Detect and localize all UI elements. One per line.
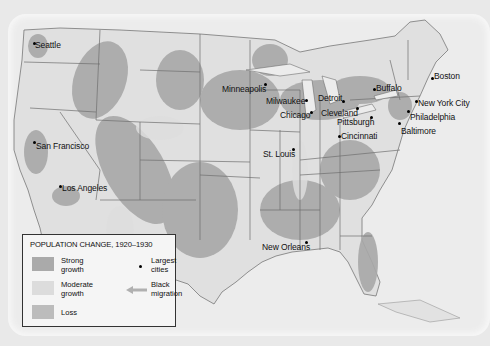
city-label-milwaukee: Milwaukee bbox=[266, 96, 305, 106]
city-dot-milwaukee bbox=[305, 99, 308, 102]
legend-label: migration bbox=[151, 289, 182, 298]
moderate-growth-swatch bbox=[32, 281, 54, 295]
city-label-boston: Boston bbox=[434, 71, 460, 81]
city-label-new-orleans: New Orleans bbox=[262, 242, 310, 252]
city-label-minneapolis: Minneapolis bbox=[222, 84, 266, 94]
cuba bbox=[378, 300, 460, 322]
legend-label: Moderate bbox=[61, 280, 93, 289]
legend-black-migration: Black migration bbox=[151, 280, 182, 298]
city-dot-baltimore bbox=[398, 122, 401, 125]
migration-arrow-icon bbox=[125, 286, 149, 294]
city-label-st-louis: St. Louis bbox=[263, 149, 295, 159]
strong-growth-swatch bbox=[32, 257, 54, 271]
map-legend: POPULATION CHANGE, 1920–1930 Strong grow… bbox=[22, 234, 176, 327]
legend-label: growth bbox=[61, 265, 84, 274]
city-label-pittsburgh: Pittsburgh bbox=[337, 117, 374, 127]
city-dot-icon bbox=[139, 265, 142, 268]
city-label-chicago: Chicago bbox=[280, 110, 311, 120]
legend-moderate-growth: Moderate growth bbox=[61, 280, 93, 298]
legend-title: POPULATION CHANGE, 1920–1930 bbox=[30, 240, 152, 249]
legend-label: Loss bbox=[61, 308, 77, 317]
city-label-detroit: Detroit bbox=[318, 93, 342, 103]
city-label-new-york-city: New York City bbox=[418, 98, 470, 108]
city-label-buffalo: Buffalo bbox=[376, 83, 402, 93]
legend-label: growth bbox=[61, 289, 93, 298]
legend-loss: Loss bbox=[61, 308, 77, 317]
legend-label: Black bbox=[151, 280, 182, 289]
legend-label: cities bbox=[151, 265, 176, 274]
city-label-baltimore: Baltimore bbox=[401, 126, 436, 136]
city-label-seattle: Seattle bbox=[35, 40, 61, 50]
legend-strong-growth: Strong growth bbox=[61, 256, 84, 274]
city-dot-detroit bbox=[342, 100, 345, 103]
loss-swatch bbox=[32, 305, 54, 319]
city-label-san-francisco: San Francisco bbox=[36, 141, 89, 151]
legend-largest-cities: Largest cities bbox=[151, 256, 176, 274]
legend-label: Strong bbox=[61, 256, 84, 265]
city-label-los-angeles: Los Angeles bbox=[62, 183, 107, 193]
city-label-philadelphia: Philadelphia bbox=[410, 112, 455, 122]
legend-label: Largest bbox=[151, 256, 176, 265]
city-label-cincinnati: Cincinnati bbox=[341, 131, 377, 141]
